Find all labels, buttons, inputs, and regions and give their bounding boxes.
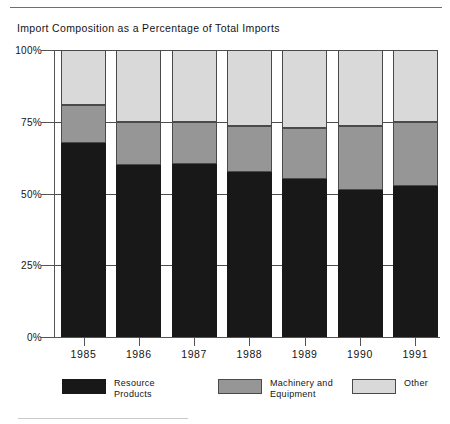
bar-1989[interactable] [282, 50, 327, 337]
x-tick-1986 [139, 337, 140, 346]
x-tick-1985 [84, 337, 85, 346]
bar-segment-1985-resource-products[interactable] [61, 143, 106, 337]
legend-label-1: Machinery and Equipment [270, 378, 333, 399]
bar-1990[interactable] [338, 50, 383, 337]
bar-segment-1986-machinery-and-equipment[interactable] [116, 122, 161, 165]
legend-item-2[interactable]: Other [352, 378, 428, 394]
footer-divider [18, 418, 188, 419]
legend-swatch-machinery-equipment [218, 379, 262, 394]
bar-segment-1991-machinery-and-equipment[interactable] [393, 122, 438, 186]
y-axis-label-50: 50% [21, 188, 42, 199]
y-tick-100 [41, 50, 55, 51]
x-tick-1991 [415, 337, 416, 346]
x-axis-label-1988: 1988 [219, 348, 279, 360]
legend-label-2: Other [404, 378, 428, 389]
y-axis-label-75: 75% [21, 116, 42, 127]
legend-swatch-resource-products [62, 379, 106, 394]
x-axis-label-1989: 1989 [275, 348, 335, 360]
header-divider [10, 7, 442, 8]
legend-swatch-other [352, 379, 396, 394]
bar-segment-1991-other[interactable] [393, 50, 438, 122]
y-tick-0 [41, 337, 55, 338]
chart-legend: Resource ProductsMachinery and Equipment… [0, 378, 450, 408]
x-axis-label-1991: 1991 [385, 348, 445, 360]
bar-segment-1991-resource-products[interactable] [393, 186, 438, 337]
bar-segment-1989-resource-products[interactable] [282, 179, 327, 337]
bar-1985[interactable] [61, 50, 106, 337]
legend-item-1[interactable]: Machinery and Equipment [218, 378, 333, 399]
x-axis-label-1985: 1985 [54, 348, 114, 360]
bar-segment-1989-other[interactable] [282, 50, 327, 128]
bar-1988[interactable] [227, 50, 272, 337]
y-tick-75 [41, 122, 55, 123]
bar-segment-1990-resource-products[interactable] [338, 190, 383, 337]
x-tick-1987 [194, 337, 195, 346]
bar-segment-1990-other[interactable] [338, 50, 383, 126]
y-axis-labels: 0%25%50%75%100% [0, 0, 42, 424]
y-axis-label-25: 25% [21, 260, 42, 271]
x-axis-label-1990: 1990 [330, 348, 390, 360]
plot-area [55, 50, 433, 337]
bar-1991[interactable] [393, 50, 438, 337]
chart-title: Import Composition as a Percentage of To… [17, 22, 280, 34]
bar-segment-1987-machinery-and-equipment[interactable] [172, 122, 217, 164]
bar-segment-1986-other[interactable] [116, 50, 161, 122]
bar-segment-1987-resource-products[interactable] [172, 164, 217, 337]
bar-segment-1988-machinery-and-equipment[interactable] [227, 126, 272, 172]
x-tick-1990 [360, 337, 361, 346]
bar-segment-1986-resource-products[interactable] [116, 165, 161, 337]
legend-label-0: Resource Products [114, 378, 155, 399]
bar-segment-1987-other[interactable] [172, 50, 217, 122]
legend-item-0[interactable]: Resource Products [62, 378, 155, 399]
bar-segment-1988-resource-products[interactable] [227, 172, 272, 337]
x-axis-label-1986: 1986 [109, 348, 169, 360]
bar-segment-1990-machinery-and-equipment[interactable] [338, 126, 383, 190]
y-axis-label-100: 100% [15, 45, 42, 56]
x-axis-label-1987: 1987 [164, 348, 224, 360]
bar-segment-1988-other[interactable] [227, 50, 272, 126]
bar-1986[interactable] [116, 50, 161, 337]
x-tick-1989 [305, 337, 306, 346]
y-tick-50 [41, 194, 55, 195]
bar-segment-1985-other[interactable] [61, 50, 106, 105]
x-axis-line [40, 337, 440, 338]
y-tick-25 [41, 265, 55, 266]
bar-segment-1989-machinery-and-equipment[interactable] [282, 128, 327, 179]
bar-1987[interactable] [172, 50, 217, 337]
bar-segment-1985-machinery-and-equipment[interactable] [61, 105, 106, 143]
x-tick-1988 [249, 337, 250, 346]
